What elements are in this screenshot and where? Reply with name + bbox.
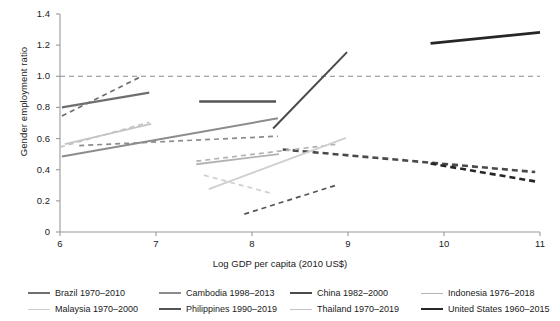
series-china [273, 52, 535, 172]
series-united [431, 32, 540, 181]
legend-swatch-icon [421, 293, 443, 294]
legend-swatch-icon [290, 292, 312, 294]
series-line-solid [209, 138, 346, 189]
x-tick-label: 11 [528, 239, 552, 249]
legend-label: United States 1960–2015 [448, 304, 550, 314]
y-tick-label: 0.6 [16, 134, 50, 144]
y-tick-label: 0.2 [16, 196, 50, 206]
series-brazil [62, 76, 149, 116]
legend-item[interactable]: Brazil 1970–2010 [28, 288, 159, 298]
legend-label: Philippines 1990–2019 [186, 304, 277, 314]
series-line-dashed [283, 149, 535, 172]
legend-item[interactable]: Cambodia 1998–2013 [159, 288, 290, 298]
chart-figure: Gender employment ratio 1.41.21.00.80.60… [0, 0, 560, 321]
legend-item[interactable]: Thailand 1970–2019 [290, 304, 421, 314]
legend-item[interactable]: Malaysia 1970–2000 [28, 304, 159, 314]
series-line-dashed [79, 136, 278, 145]
legend-swatch-icon [28, 292, 50, 294]
y-tick-label: 0 [16, 227, 50, 237]
series-line-solid [431, 32, 540, 43]
series-philippines [199, 102, 338, 215]
y-tick-label: 0.8 [16, 102, 50, 112]
y-tick-label: 0.4 [16, 165, 50, 175]
y-tick-label: 1.2 [16, 40, 50, 50]
legend-label: Indonesia 1976–2018 [448, 288, 535, 298]
x-tick-label: 8 [240, 239, 264, 249]
legend-label: Cambodia 1998–2013 [186, 288, 275, 298]
y-tick-label: 1.0 [16, 71, 50, 81]
series-line-solid [65, 124, 151, 144]
x-tick-label: 7 [144, 239, 168, 249]
chart-legend: Brazil 1970–2010Cambodia 1998–2013China … [28, 285, 552, 317]
x-tick-label: 6 [48, 239, 72, 249]
legend-label: Brazil 1970–2010 [55, 288, 125, 298]
chart-canvas [60, 14, 540, 232]
legend-label: Thailand 1970–2019 [317, 304, 399, 314]
legend-swatch-icon [159, 292, 181, 294]
legend-swatch-icon [159, 308, 181, 310]
legend-item[interactable]: Indonesia 1976–2018 [421, 288, 552, 298]
legend-item[interactable]: China 1982–2000 [290, 288, 421, 298]
legend-swatch-icon [290, 309, 312, 310]
x-tick-label: 10 [432, 239, 456, 249]
legend-swatch-icon [421, 308, 443, 310]
series-indonesia [196, 144, 338, 164]
series-malaysia [204, 138, 346, 194]
legend-item[interactable]: United States 1960–2015 [421, 304, 552, 314]
legend-item[interactable]: Philippines 1990–2019 [159, 304, 290, 314]
legend-swatch-icon [28, 309, 50, 310]
series-line-solid [273, 52, 347, 128]
x-tick-label: 9 [336, 239, 360, 249]
series-line-dashed [244, 185, 338, 215]
y-tick-label: 1.4 [16, 9, 50, 19]
legend-label: Malaysia 1970–2000 [55, 304, 138, 314]
legend-label: China 1982–2000 [317, 288, 388, 298]
x-axis-title: Log GDP per capita (2010 US$) [0, 258, 560, 269]
plot-area [60, 14, 540, 232]
